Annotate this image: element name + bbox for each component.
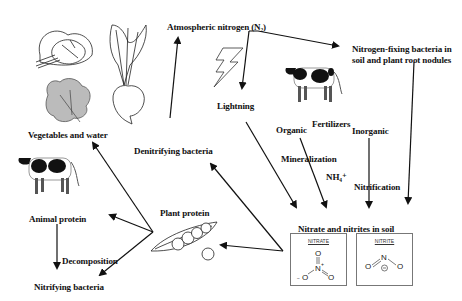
vegetables-illustration bbox=[36, 31, 92, 68]
arrow-to-lightning bbox=[242, 31, 249, 88]
nitrite-box: NITRITE N O O bbox=[356, 233, 413, 286]
svg-text:O: O bbox=[397, 262, 403, 271]
beet-illustration bbox=[110, 25, 146, 124]
label-nh4: NH₄⁺ bbox=[326, 172, 347, 182]
label-vegetables-and-water: Vegetables and water bbox=[28, 130, 108, 140]
svg-text:O: O bbox=[302, 273, 308, 282]
svg-text:O: O bbox=[315, 249, 321, 258]
label-fertilizers: Fertilizers bbox=[312, 119, 350, 129]
cow-image-left bbox=[17, 152, 85, 200]
lightning-icon bbox=[214, 48, 243, 87]
label-nitrogen-fixing-1: Nitrogen-fixing bacteria in bbox=[352, 44, 452, 54]
label-denitrifying-bacteria: Denitrifying bacteria bbox=[134, 146, 213, 156]
nitrate-box: NITRATE O N + O O − bbox=[290, 233, 347, 286]
arrow-to-atmospheric bbox=[170, 38, 178, 118]
label-lightning: Lightning bbox=[217, 101, 254, 111]
svg-text:N: N bbox=[381, 253, 387, 262]
arrow-soil-to-denitrifying bbox=[211, 164, 283, 251]
svg-text:O: O bbox=[365, 262, 371, 271]
arrow-to-vegetables bbox=[93, 143, 153, 232]
label-nitrogen-fixing-2: soil and plant root nodules bbox=[352, 55, 451, 65]
svg-text:−: − bbox=[297, 275, 300, 281]
arrow-to-nitrifying bbox=[100, 232, 153, 275]
svg-text:O: O bbox=[328, 273, 334, 282]
cow-image-top bbox=[282, 60, 350, 108]
pea-pod-illustration bbox=[151, 222, 217, 260]
label-animal-protein: Animal protein bbox=[29, 214, 86, 224]
arrow-to-nfixing bbox=[249, 31, 338, 46]
label-mineralization: Mineralization bbox=[281, 154, 337, 164]
svg-text:+: + bbox=[321, 261, 324, 267]
kale-illustration bbox=[46, 79, 90, 122]
nitrate-structure: O N + O O − bbox=[291, 234, 346, 285]
arrow-nfixing-to-soil bbox=[408, 62, 414, 203]
label-decomposition: Decomposition bbox=[62, 256, 118, 266]
label-organic: Organic bbox=[276, 125, 307, 135]
label-nitrification: Nitrification bbox=[354, 182, 400, 192]
arrow-organic-to-soil bbox=[300, 138, 326, 207]
label-atmospheric-nitrogen: Atmospheric nitrogen (N₂) bbox=[167, 22, 266, 32]
nitrite-structure: N O O bbox=[357, 234, 412, 285]
label-inorganic: Inorganic bbox=[352, 126, 389, 136]
label-plant-protein: Plant protein bbox=[160, 208, 209, 218]
arrow-soil-to-plant bbox=[221, 245, 283, 251]
label-nitrifying-bacteria: Nitrifying bacteria bbox=[34, 282, 104, 292]
